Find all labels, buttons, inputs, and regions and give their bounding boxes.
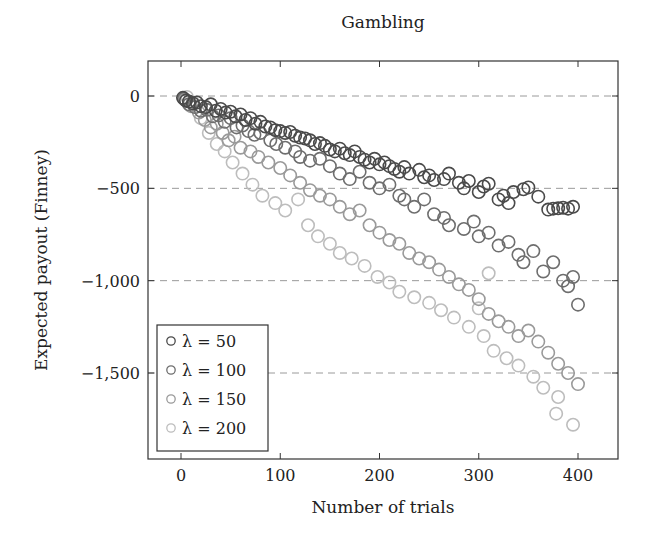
data-point: [262, 156, 274, 168]
data-point: [353, 166, 365, 178]
y-tick-label: −1,500: [81, 364, 140, 383]
data-point: [567, 419, 579, 431]
data-point: [527, 370, 539, 382]
chart-title: Gambling: [341, 12, 425, 32]
x-tick-label: 100: [265, 466, 296, 485]
data-point: [542, 346, 554, 358]
data-point: [312, 230, 324, 242]
legend-label: λ = 100: [182, 361, 246, 380]
legend-label: λ = 150: [182, 390, 246, 409]
data-point: [500, 352, 512, 364]
data-point: [371, 271, 383, 283]
x-tick-label: 400: [563, 466, 594, 485]
data-point: [383, 276, 395, 288]
data-point: [423, 297, 435, 309]
data-point: [292, 193, 304, 205]
legend-label: λ = 200: [182, 419, 246, 438]
data-point: [256, 190, 268, 202]
legend: λ = 50λ = 100λ = 150λ = 200: [157, 325, 268, 451]
data-point: [246, 178, 258, 190]
data-point: [473, 293, 485, 305]
data-point: [547, 256, 559, 268]
data-point: [463, 284, 475, 296]
data-point: [236, 167, 248, 179]
legend-label: λ = 50: [182, 332, 236, 351]
series: [178, 93, 584, 311]
data-point: [487, 345, 499, 357]
data-point: [572, 298, 584, 310]
data-point: [418, 193, 430, 205]
data-point: [324, 238, 336, 250]
y-tick-label: 0: [130, 87, 140, 106]
data-point: [463, 321, 475, 333]
data-point: [552, 358, 564, 370]
data-point: [532, 335, 544, 347]
y-tick-label: −500: [96, 179, 140, 198]
data-point: [279, 204, 291, 216]
data-point: [346, 252, 358, 264]
data-point: [502, 321, 514, 333]
data-point: [512, 359, 524, 371]
data-point: [358, 260, 370, 272]
data-point: [537, 265, 549, 277]
data-point: [552, 391, 564, 403]
data-point: [226, 156, 238, 168]
data-point: [334, 247, 346, 259]
data-point: [482, 267, 494, 279]
data-point: [435, 304, 447, 316]
data-point: [537, 382, 549, 394]
data-point: [408, 291, 420, 303]
x-axis-label: Number of trials: [311, 497, 454, 517]
x-tick-label: 200: [364, 466, 395, 485]
x-tick-label: 0: [176, 466, 186, 485]
data-point: [572, 378, 584, 390]
data-point: [468, 215, 480, 227]
y-axis-label: Expected payout (Finney): [31, 149, 51, 371]
data-point: [522, 324, 534, 336]
data-point: [527, 245, 539, 257]
data-point: [478, 330, 490, 342]
x-tick-label: 300: [463, 466, 494, 485]
data-point: [532, 190, 544, 202]
data-point: [448, 311, 460, 323]
data-point: [393, 286, 405, 298]
data-point: [302, 219, 314, 231]
data-point: [550, 407, 562, 419]
scatter-chart: Gambling 0100200300400 0−500−1,000−1,500…: [0, 0, 653, 541]
y-tick-label: −1,000: [81, 272, 140, 291]
